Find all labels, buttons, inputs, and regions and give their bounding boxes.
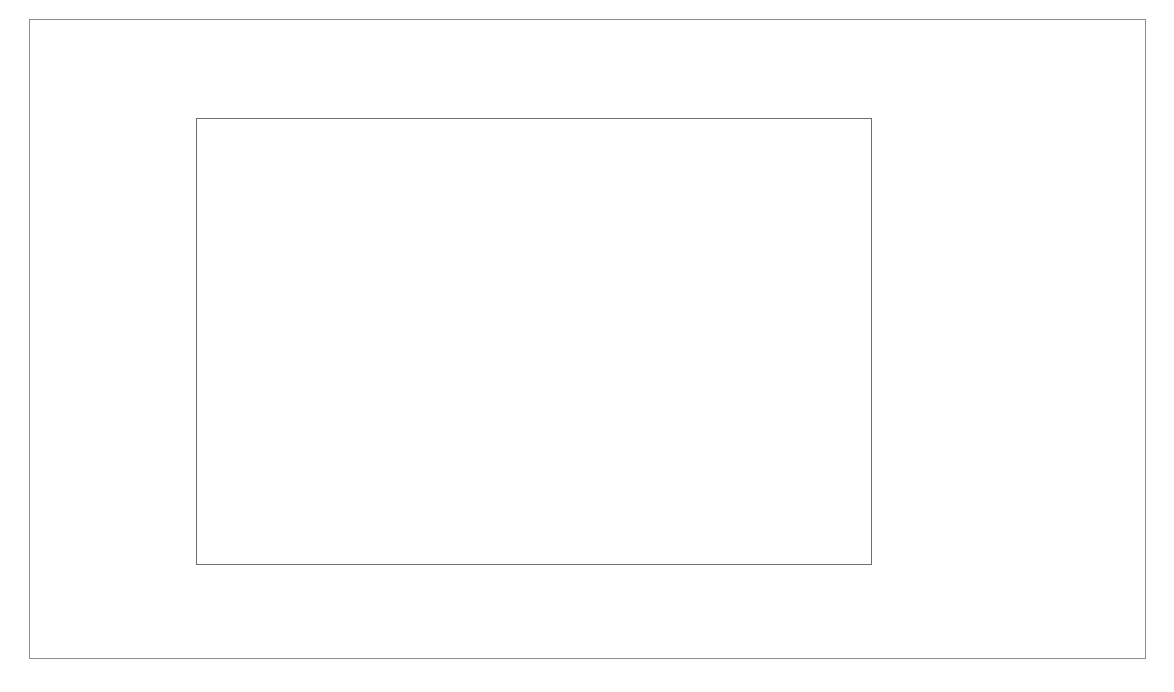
scatter-points-layer xyxy=(197,119,871,564)
probability-plot-figure xyxy=(0,0,1174,692)
plot-area xyxy=(196,118,872,565)
